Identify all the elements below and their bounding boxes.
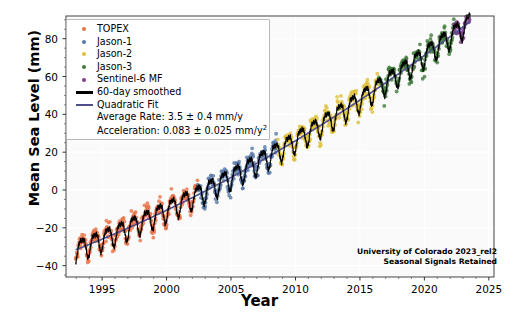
credit-line-1: University of Colorado 2023_rel2 <box>357 247 497 257</box>
legend-entry-6: Quadratic Fit <box>71 99 265 112</box>
chart-legend: TOPEXJason-1Jason-2Jason-3Sentinel-6 MF6… <box>66 19 270 140</box>
legend-label: Quadratic Fit <box>97 99 158 112</box>
x-tick-2005: 2005 <box>211 283 251 295</box>
legend-marker-dot-icon <box>71 52 97 56</box>
legend-entry-8: Acceleration: 0.083 ± 0.025 mm/y2 <box>71 124 265 137</box>
dot-icon <box>82 65 86 69</box>
source-annotation: University of Colorado 2023_rel2 Seasona… <box>357 247 497 267</box>
credit-line-2: Seasonal Signals Retained <box>357 257 497 267</box>
y-tick--20: −20 <box>32 222 58 234</box>
sea-level-chart-figure: Mean Sea Level (mm) Year −40−20020406080… <box>0 0 519 320</box>
legend-marker-dot-icon <box>71 78 97 82</box>
y-tick--40: −40 <box>32 260 58 272</box>
legend-marker-dot-icon <box>71 65 97 69</box>
y-tick-60: 60 <box>32 71 58 83</box>
y-tick-0: 0 <box>32 184 58 196</box>
legend-entry-5: 60-day smoothed <box>71 86 265 99</box>
legend-marker-line-icon <box>71 91 97 94</box>
legend-marker-line-icon <box>71 104 97 106</box>
y-tick-20: 20 <box>32 146 58 158</box>
legend-label: TOPEX <box>97 23 129 36</box>
legend-label: Jason-2 <box>97 48 132 61</box>
legend-entry-0: TOPEX <box>71 23 265 36</box>
legend-marker-dot-icon <box>71 27 97 31</box>
legend-entry-4: Sentinel-6 MF <box>71 73 265 86</box>
dot-icon <box>82 27 86 31</box>
y-tick-80: 80 <box>32 33 58 45</box>
dot-icon <box>82 52 86 56</box>
legend-label: Jason-3 <box>97 61 132 74</box>
dot-icon <box>82 78 86 82</box>
legend-entry-3: Jason-3 <box>71 61 265 74</box>
legend-label: Acceleration: 0.083 ± 0.025 mm/y2 <box>97 122 267 138</box>
line-icon <box>76 91 93 94</box>
x-tick-2000: 2000 <box>147 283 187 295</box>
y-tick-40: 40 <box>32 108 58 120</box>
dot-icon <box>82 40 86 44</box>
legend-label: Jason-1 <box>97 36 132 49</box>
x-tick-1995: 1995 <box>82 283 122 295</box>
legend-entry-1: Jason-1 <box>71 36 265 49</box>
legend-marker-dot-icon <box>71 40 97 44</box>
x-tick-2025: 2025 <box>469 283 509 295</box>
legend-entry-2: Jason-2 <box>71 48 265 61</box>
legend-label: Sentinel-6 MF <box>97 73 163 86</box>
legend-label: 60-day smoothed <box>97 86 181 99</box>
x-tick-2015: 2015 <box>340 283 380 295</box>
x-tick-2020: 2020 <box>404 283 444 295</box>
line-icon <box>76 104 93 106</box>
x-tick-2010: 2010 <box>275 283 315 295</box>
